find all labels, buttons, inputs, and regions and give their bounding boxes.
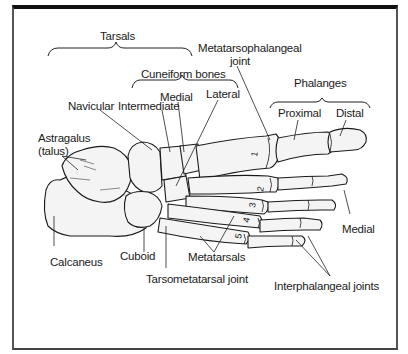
navicular-bone — [128, 142, 162, 192]
toe-3-phalanges — [268, 200, 336, 212]
label-navicular: Navicular — [68, 100, 114, 112]
label-metatarsophalangeal: Metatarsophalangeal — [198, 42, 302, 54]
label-intermediate-cuneiform: Intermediate — [118, 100, 180, 112]
label-distal: Distal — [336, 107, 364, 119]
metatarsal-1 — [196, 134, 281, 180]
label-proximal: Proximal — [278, 107, 321, 119]
label-talus: (talus) — [38, 145, 69, 157]
label-medial-phalanx: Medial — [342, 223, 375, 235]
toe-5-phalanges — [248, 236, 305, 248]
label-tarsals: Tarsals — [100, 30, 135, 42]
tarsals-brace — [48, 42, 192, 56]
label-metatarsals: Metatarsals — [188, 251, 245, 263]
hallux-distal-phalanx — [328, 128, 366, 152]
medial-phalanx-leader — [344, 190, 350, 214]
label-astragalus: Astragalus — [38, 132, 90, 144]
metatarsophalangeal-leader — [237, 66, 270, 140]
label-lateral-cuneiform: Lateral — [206, 88, 240, 100]
intermediate-leader — [162, 110, 170, 152]
toe-4-phalanges — [260, 218, 322, 232]
label-phalanges: Phalanges — [294, 77, 347, 89]
label-tarsometatarsal-joint: Tarsometatarsal joint — [146, 273, 248, 285]
hallux-proximal-phalanx — [276, 132, 334, 162]
label-interphalangeal-joints: Interphalangeal joints — [274, 280, 379, 292]
navicular-leader — [100, 110, 152, 150]
label-metatarsophalangeal-joint: joint — [230, 55, 250, 67]
label-cuboid: Cuboid — [120, 250, 155, 262]
label-calcaneus: Calcaneus — [50, 256, 103, 268]
label-cuneiform-bones: Cuneiform bones — [141, 68, 226, 80]
cuboid-bone — [124, 192, 162, 228]
